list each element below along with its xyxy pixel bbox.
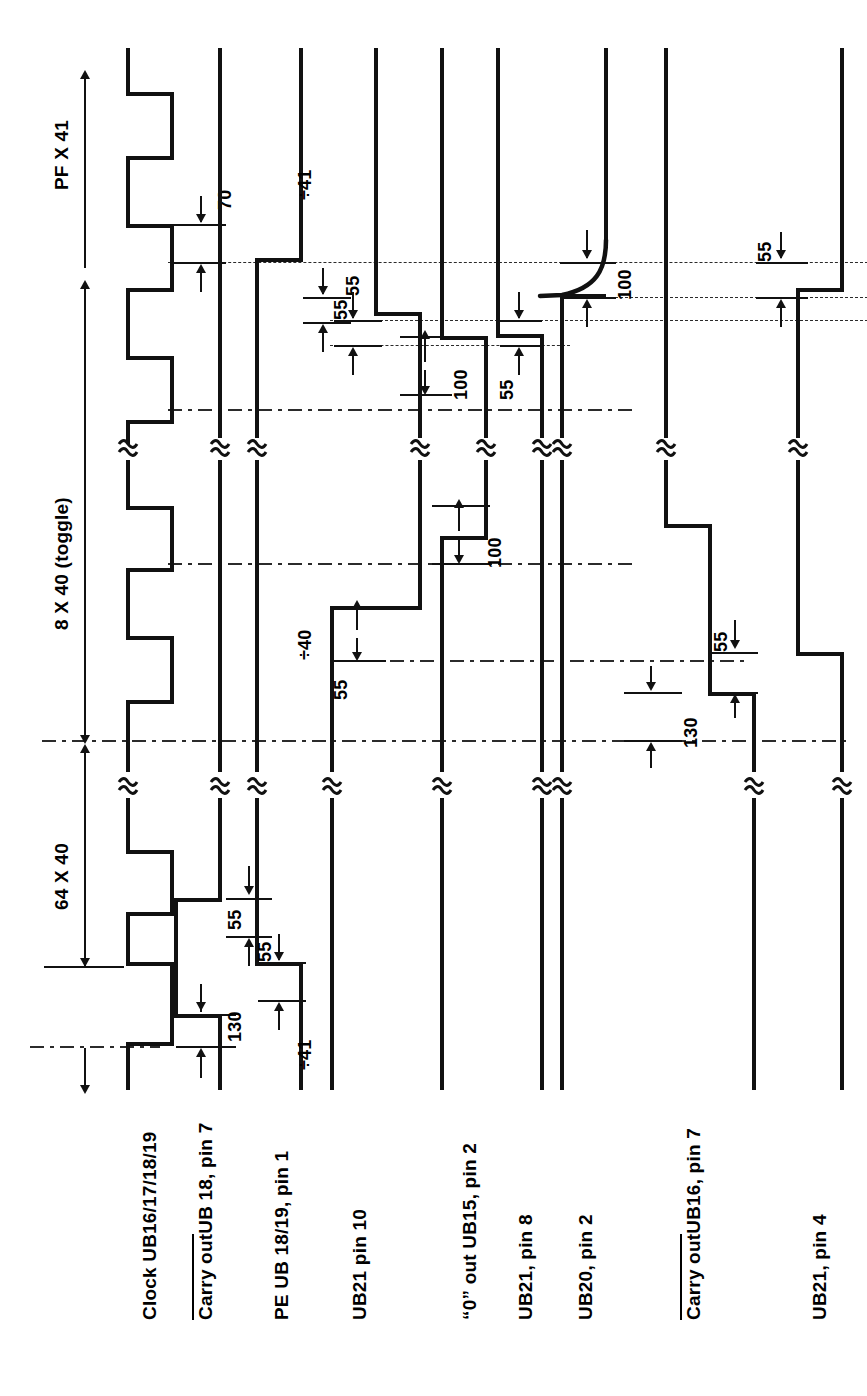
break-symbol-ub21p10-1 <box>409 434 431 460</box>
dimension-130-carry16-label: 130 <box>682 717 700 748</box>
signal-label-carry-ub16: Carry outUB16, pin 7 <box>684 1128 703 1320</box>
carry-out-overline-1: Carry out <box>192 1234 216 1320</box>
span-arrow-toggle-head-bottom <box>80 735 90 744</box>
span-64-tick <box>44 966 124 968</box>
span-label-top: PF X 41 <box>52 120 71 190</box>
span-arrow-64-line <box>84 752 86 967</box>
signal-label-pe-ub: PE UB 18/19, pin 1 <box>272 1151 291 1320</box>
signal-label-ub20-pin2: UB20, pin 2 <box>576 1214 595 1320</box>
signal-label-carry-ub16-text: UB16, pin 7 <box>683 1128 704 1234</box>
break-symbol-ub21p8-2 <box>531 772 553 798</box>
signal-label-carry-ub18: Carry outUB 18, pin 7 <box>196 1123 215 1320</box>
break-symbol-zeroout-1 <box>475 434 497 460</box>
break-symbol-carry18-2 <box>209 772 231 798</box>
break-symbol-pe-2 <box>246 772 268 798</box>
span-arrow-toggle-line <box>84 288 86 740</box>
break-symbol-ub21p4-1 <box>787 434 809 460</box>
break-symbol-carry18-1 <box>209 434 231 460</box>
signal-label-zero-out-ub15: “0” out UB15, pin 2 <box>460 1143 479 1320</box>
rc-decay-curve <box>540 240 614 302</box>
reference-line-top-2 <box>330 320 867 321</box>
reference-line-bottom <box>30 1046 160 1048</box>
dimension-55-ub21p10-upper-label: 55 <box>332 300 350 320</box>
carry-out-overline-2: Carry out <box>680 1234 704 1320</box>
span-label-toggle: 8 X 40 (toggle) <box>52 497 71 630</box>
reference-line-main <box>42 740 850 742</box>
span-arrow-64-head-top <box>80 744 90 753</box>
break-symbol-ub21p10-2 <box>321 772 343 798</box>
dimension-55-pe-bottom-label: 55 <box>256 942 274 962</box>
signal-label-clock: Clock UB16/17/18/19 <box>140 1131 159 1320</box>
reference-line-mid-1 <box>168 409 638 411</box>
span-arrow-top-head <box>80 70 90 79</box>
divider-label-div40: ÷40 <box>296 629 314 660</box>
dimension-55-ub21p10-lower-label: 55 <box>332 680 350 700</box>
break-symbol-ub20p2-1 <box>551 434 573 460</box>
dimension-100-zeroout-middle-label: 100 <box>486 537 504 568</box>
dimension-100-zeroout-upper-label: 100 <box>452 369 470 400</box>
break-symbol-ub21p8-1 <box>531 434 553 460</box>
reference-line-mid-2 <box>168 563 638 565</box>
span-arrow-toggle-head-top <box>80 280 90 289</box>
break-symbol-clock-2 <box>117 772 139 798</box>
signal-label-carry-ub18-text: UB 18, pin 7 <box>195 1123 216 1234</box>
break-symbol-ub20p2-2 <box>551 772 573 798</box>
span-arrow-top-line <box>84 78 86 268</box>
break-symbol-clock-1 <box>117 434 139 460</box>
dimension-100-ub20p2-label: 100 <box>616 269 634 300</box>
break-symbol-carry16-1 <box>655 434 677 460</box>
span-label-64: 64 X 40 <box>52 843 71 910</box>
break-symbol-pe-1 <box>246 434 268 460</box>
span-arrow-bottom-line <box>84 1048 86 1090</box>
signal-label-ub21-pin10: UB21 pin 10 <box>350 1209 369 1320</box>
dimension-55-ub21p8-label: 55 <box>498 380 516 400</box>
divider-label-div41-top: ÷41 <box>296 169 314 200</box>
break-symbol-zeroout-2 <box>431 772 453 798</box>
signal-label-ub21-pin8: UB21, pin 8 <box>516 1214 535 1320</box>
dimension-55-carry16-lower-label: 55 <box>712 632 730 652</box>
timing-diagram-figure: PF X 41 8 X 40 (toggle) 64 X 40 <box>0 0 867 1396</box>
divider-label-div41-bottom: ÷41 <box>296 1039 314 1070</box>
span-arrow-bottom-head <box>80 1085 90 1094</box>
signal-label-ub21-pin4: UB21, pin 4 <box>810 1214 829 1320</box>
dimension-55-carry18-bottom-label: 55 <box>226 910 244 930</box>
break-symbol-ub21p4-2 <box>831 772 853 798</box>
dimension-55-carry16-upper-label: 55 <box>756 242 774 262</box>
break-symbol-carry16-2 <box>743 772 765 798</box>
dimension-130-bottom-label: 130 <box>226 1011 244 1042</box>
